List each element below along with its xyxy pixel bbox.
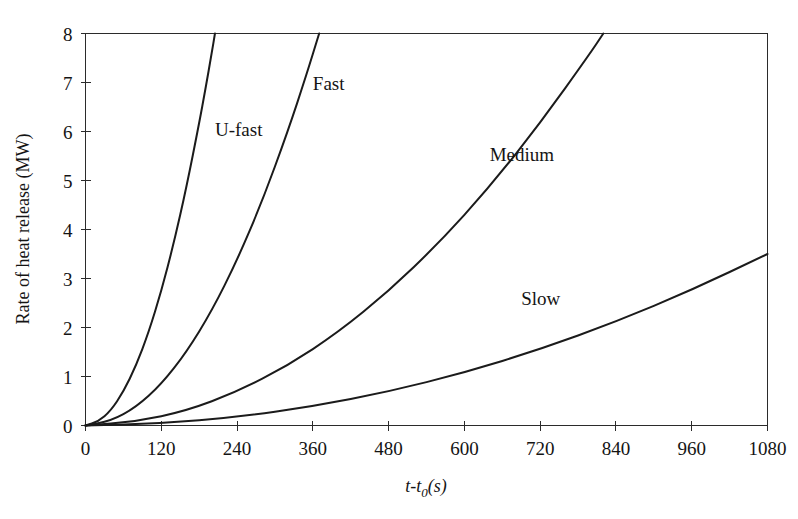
chart-container: 01202403604806007208409601080 012345678 …	[0, 0, 798, 519]
x-tick-label-480: 480	[374, 438, 403, 459]
x-tick-label-1080: 1080	[749, 438, 787, 459]
y-axis-tick-labels: 012345678	[63, 24, 73, 437]
y-tick-label-7: 7	[63, 73, 73, 94]
curve-label-medium: Medium	[490, 144, 555, 165]
x-tick-label-600: 600	[450, 438, 479, 459]
y-tick-label-2: 2	[63, 318, 73, 339]
heat-release-rate-chart: 01202403604806007208409601080 012345678 …	[0, 0, 798, 519]
x-axis-title-tail: (s)	[428, 476, 447, 497]
x-tick-label-240: 240	[223, 438, 252, 459]
y-tick-label-3: 3	[63, 269, 73, 290]
x-tick-label-120: 120	[147, 438, 176, 459]
curve-label-fast: Fast	[313, 73, 345, 94]
y-axis-title: Rate of heat release (MW)	[13, 134, 34, 325]
x-tick-label-0: 0	[81, 438, 91, 459]
x-tick-label-840: 840	[602, 438, 631, 459]
y-tick-label-5: 5	[63, 171, 73, 192]
x-tick-label-360: 360	[299, 438, 328, 459]
x-axis-title-main: t-t	[405, 476, 422, 496]
y-tick-label-8: 8	[63, 24, 73, 45]
curve-label-u-fast: U-fast	[215, 119, 263, 140]
curve-label-slow: Slow	[521, 288, 560, 309]
y-tick-label-0: 0	[63, 416, 73, 437]
y-tick-label-6: 6	[63, 122, 73, 143]
x-tick-label-720: 720	[526, 438, 555, 459]
x-tick-label-960: 960	[677, 438, 706, 459]
y-tick-label-1: 1	[63, 367, 73, 388]
y-tick-label-4: 4	[63, 220, 73, 241]
